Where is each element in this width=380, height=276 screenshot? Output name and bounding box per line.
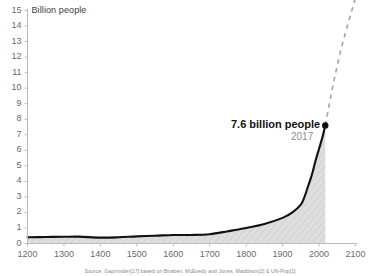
y-tick-label: 0 — [4, 238, 22, 248]
x-tick-label: 1800 — [229, 249, 263, 259]
x-tick-label: 1700 — [193, 249, 227, 259]
x-tick-label: 1500 — [120, 249, 154, 259]
y-axis-title: Billion people — [32, 5, 87, 15]
y-tick-label: 9 — [4, 98, 22, 108]
data-point-marker-2017 — [322, 122, 328, 128]
y-tick-label: 2 — [4, 206, 22, 216]
x-tick-label: 1600 — [156, 249, 190, 259]
y-tick-label: 12 — [4, 51, 22, 61]
annotation-population-year: 2017 — [0, 131, 313, 142]
x-tick-label: 2000 — [302, 249, 336, 259]
y-tick-label: 10 — [4, 82, 22, 92]
population-chart: Billion people 0123456789101112131415 12… — [0, 0, 380, 276]
y-tick-label: 11 — [4, 67, 22, 77]
y-tick-label: 5 — [4, 160, 22, 170]
annotation-population-value: 7.6 billion people — [0, 118, 320, 130]
y-tick-label: 13 — [4, 36, 22, 46]
y-tick-label: 4 — [4, 175, 22, 185]
x-tick-label: 1300 — [47, 249, 81, 259]
y-tick-label: 1 — [4, 222, 22, 232]
y-tick-label: 6 — [4, 144, 22, 154]
x-tick-label: 2100 — [339, 249, 373, 259]
y-tick-label: 15 — [4, 5, 22, 15]
y-tick-label: 14 — [4, 20, 22, 30]
population-area-fill — [28, 125, 326, 243]
x-tick-label: 1400 — [83, 249, 117, 259]
y-tick-label: 3 — [4, 191, 22, 201]
x-tick-label: 1900 — [266, 249, 300, 259]
source-caption: Source: Gapminder[17] based on Biraben, … — [0, 268, 380, 274]
projection-dashed-line — [325, 0, 355, 125]
x-tick-label: 1200 — [11, 249, 45, 259]
